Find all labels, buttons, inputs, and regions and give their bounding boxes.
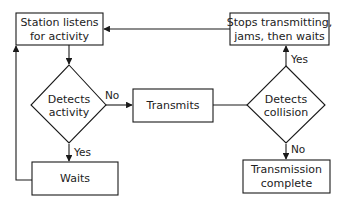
- node-text: Detects: [265, 93, 308, 106]
- node-transmits: Transmits: [133, 89, 213, 122]
- node-text: jams, then waits: [233, 30, 325, 43]
- node-waits: Waits: [32, 162, 118, 195]
- node-text: for activity: [30, 30, 90, 43]
- edge-label-no-collision: No: [291, 143, 305, 155]
- edge-waits-to-listen: [16, 46, 32, 180]
- edge-label-yes-activity: Yes: [73, 146, 91, 158]
- node-transmission-complete: Transmission complete: [243, 160, 330, 193]
- edge-label-yes-collision: Yes: [290, 53, 308, 65]
- node-text: Transmits: [146, 99, 200, 112]
- edge-label-no-activity: No: [105, 89, 119, 101]
- node-text: Stops transmitting,: [227, 16, 332, 29]
- node-text: Waits: [60, 172, 90, 185]
- flowchart: No Yes Yes No Station listens for activi…: [0, 0, 347, 203]
- node-detects-activity: Detects activity: [31, 65, 106, 143]
- node-text: Detects: [48, 93, 91, 106]
- node-station-listens: Station listens for activity: [16, 13, 103, 45]
- node-text: Station listens: [20, 16, 98, 29]
- node-stops-transmitting: Stops transmitting, jams, then waits: [227, 13, 332, 45]
- node-detects-collision: Detects collision: [247, 66, 325, 143]
- node-text: Transmission: [250, 163, 322, 176]
- node-text: complete: [261, 177, 313, 190]
- node-text: activity: [49, 106, 90, 119]
- node-text: collision: [264, 106, 308, 119]
